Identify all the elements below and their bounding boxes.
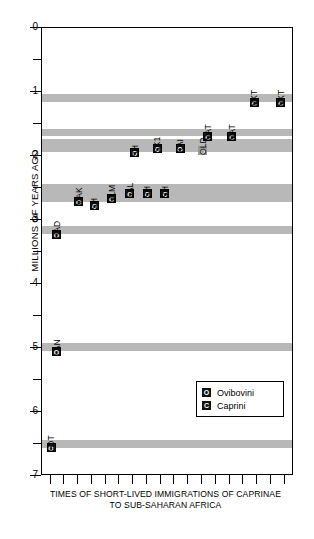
y-tick-label: 0 — [16, 22, 38, 32]
shaded-band — [42, 139, 292, 151]
shaded-band — [42, 343, 292, 351]
figure-caption: TIMES OF SHORT-LIVED IMMIGRATIONS OF CAP… — [28, 489, 303, 511]
data-point-label: LOT — [47, 436, 56, 453]
y-tick-minor — [33, 187, 41, 188]
x-tick — [91, 475, 92, 484]
legend-item-caprini: C Caprini — [202, 399, 278, 412]
x-tick — [132, 475, 133, 484]
x-tick — [50, 475, 51, 484]
data-point-label: SH — [161, 186, 170, 198]
data-point-label: LAL — [126, 182, 135, 197]
y-tick-label: 1 — [16, 86, 38, 96]
x-tick — [146, 475, 147, 484]
x-tick — [270, 475, 271, 484]
y-tick-minor — [33, 123, 41, 124]
y-tick-label: 4 — [16, 278, 38, 288]
y-tick-minor — [33, 315, 41, 316]
ovibovini-symbol: O — [202, 388, 211, 397]
x-tick — [173, 475, 174, 484]
data-point-label: NAT — [228, 125, 237, 142]
data-point-label: NKT — [250, 89, 259, 106]
x-tick — [229, 475, 230, 484]
x-tick — [63, 475, 64, 484]
caption-line-2: TO SUB-SAHARAN AFRICA — [28, 500, 303, 511]
shaded-band — [42, 129, 292, 135]
caprini-label: Caprini — [217, 401, 246, 411]
data-point-label: SK1 — [153, 137, 162, 153]
x-tick — [118, 475, 119, 484]
y-tick-label: 6 — [16, 406, 38, 416]
x-tick — [105, 475, 106, 484]
y-tick-label: 5 — [16, 342, 38, 352]
y-tick-label: 7 — [16, 470, 38, 480]
y-tick-label: 3 — [16, 214, 38, 224]
data-point-label: NKT — [277, 89, 286, 106]
y-tick-minor — [33, 59, 41, 60]
data-point-label: ULM — [108, 185, 117, 203]
legend-item-ovibovini: O Ovibovini — [202, 386, 278, 399]
data-point-label: SH — [143, 186, 152, 198]
x-tick — [77, 475, 78, 484]
x-tick — [215, 475, 216, 484]
shaded-band — [42, 226, 292, 234]
y-tick-minor — [33, 251, 41, 252]
x-tick — [256, 475, 257, 484]
x-tick — [242, 475, 243, 484]
x-tick — [284, 475, 285, 484]
legend: O Ovibovini C Caprini — [196, 381, 284, 417]
x-tick — [201, 475, 202, 484]
ovibovini-label: Ovibovini — [217, 388, 254, 398]
y-tick-minor — [33, 443, 41, 444]
y-tick-label: 2 — [16, 150, 38, 160]
data-point-label: OLD — [199, 137, 208, 155]
x-tick — [187, 475, 188, 484]
shaded-band — [42, 440, 292, 448]
data-point-label: LAN — [53, 339, 62, 356]
caption-line-1: TIMES OF SHORT-LIVED IMMIGRATIONS OF CAP… — [28, 489, 303, 500]
data-point-label: SH — [90, 198, 99, 210]
data-point-label: KAI — [176, 139, 185, 153]
caprini-symbol: C — [202, 401, 211, 410]
data-point-label: SH — [131, 145, 140, 157]
data-point-label: HAD — [53, 221, 62, 239]
data-point-label: MAK — [75, 187, 84, 206]
figure-caprinae-immigrations: MILLIONS OF YEARS AGO 01234567 CNKTCNKTC… — [0, 0, 314, 539]
x-tick — [160, 475, 161, 484]
y-tick-minor — [33, 379, 41, 380]
